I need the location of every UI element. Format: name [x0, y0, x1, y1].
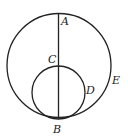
label-e: E — [111, 74, 120, 87]
label-b: B — [52, 123, 61, 136]
geometry-diagram: A C D E B — [0, 0, 128, 140]
label-a: A — [60, 15, 69, 28]
label-d: D — [85, 84, 95, 97]
label-c: C — [48, 53, 57, 66]
